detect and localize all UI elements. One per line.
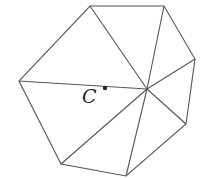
triangulated-heptagon-diagram: C (0, 0, 207, 178)
spoke-edge (126, 89, 147, 176)
point-c-dot (103, 86, 107, 90)
spoke-edge (90, 6, 147, 89)
point-c-label: C (82, 85, 97, 107)
spoke-edge (61, 89, 147, 164)
spoke-edge (147, 59, 195, 89)
triangulation-spokes (19, 6, 195, 176)
spoke-edge (147, 89, 186, 124)
spoke-edge (147, 6, 164, 89)
